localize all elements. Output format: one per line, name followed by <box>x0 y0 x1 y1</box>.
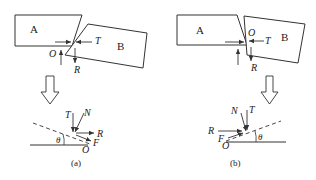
diagram-canvas: A B T O R θ T N R <box>0 0 316 180</box>
block-b-label: B <box>281 31 288 43</box>
angle-arc <box>255 131 256 142</box>
block-a-label: A <box>196 24 204 36</box>
force-n-vector <box>241 113 246 131</box>
origin-label: O <box>222 140 229 151</box>
contact-point-label: O <box>49 48 56 59</box>
angle-label: θ <box>258 132 263 142</box>
angle-arc <box>63 134 64 145</box>
panel-b-bottom: θ N T R F O <box>207 104 286 151</box>
contact-point-label: O <box>248 27 255 38</box>
panel-b-top: A B O T R <box>177 15 305 73</box>
caption-a: (a) <box>71 158 81 168</box>
force-f-vector <box>76 135 91 141</box>
panel-a: A B T O R θ T N R <box>15 15 147 168</box>
force-n-label: N <box>83 107 92 118</box>
block-b <box>244 16 305 63</box>
caption-b: (b) <box>230 158 241 168</box>
force-n-vector <box>75 113 84 132</box>
block-b-label: B <box>117 40 124 52</box>
angle-label: θ <box>56 135 61 145</box>
force-n-label: N <box>230 105 239 116</box>
transition-arrow-icon <box>261 76 278 104</box>
transition-arrow-icon <box>41 76 59 104</box>
force-r-label: R <box>250 62 257 73</box>
panel-a-bottom: θ T N R F O <box>30 107 103 155</box>
origin-label: O <box>82 144 89 155</box>
panel-b: A B O T R θ N T R F O (b) <box>177 15 305 168</box>
block-a-label: A <box>30 23 38 35</box>
block-a <box>177 15 247 45</box>
panel-a-top: A B T O R <box>15 15 147 75</box>
force-r-label: R <box>73 64 80 75</box>
force-t-label: T <box>249 104 256 115</box>
force-t-label: T <box>65 109 72 120</box>
block-a <box>15 15 82 46</box>
force-r-label: R <box>207 125 214 136</box>
force-f-label: F <box>92 137 100 148</box>
incline-dashed-line <box>33 123 90 144</box>
